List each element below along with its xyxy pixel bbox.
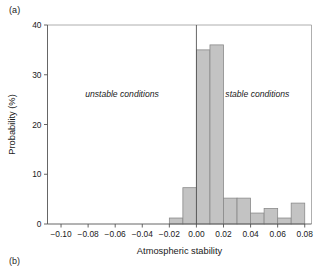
x-axis-tick-label: −0.04 bbox=[132, 229, 154, 239]
histogram-bar bbox=[196, 50, 210, 224]
chart-svg: −0.10−0.08−0.06−0.04−0.020.000.020.040.0… bbox=[0, 0, 323, 267]
x-axis-title: Atmospheric stability bbox=[137, 246, 223, 256]
y-axis-tick-label: 10 bbox=[32, 169, 42, 179]
x-axis-tick-label: −0.02 bbox=[159, 229, 181, 239]
x-axis-tick-label: 0.08 bbox=[297, 229, 314, 239]
x-axis-tick-label: −0.10 bbox=[50, 229, 72, 239]
histogram-bar bbox=[169, 218, 183, 224]
histogram-bar bbox=[291, 203, 305, 224]
annotation-unstable-conditions: unstable conditions bbox=[85, 89, 159, 99]
x-axis-tick-label: 0.04 bbox=[242, 229, 259, 239]
annotation-stable-conditions: stable conditions bbox=[225, 89, 290, 99]
y-axis-tick-label: 0 bbox=[37, 219, 42, 229]
x-axis-tick-label: 0.00 bbox=[188, 229, 205, 239]
histogram-bar bbox=[251, 213, 265, 224]
histogram-bar bbox=[264, 209, 278, 224]
y-axis-tick-label: 40 bbox=[32, 20, 42, 30]
histogram-bar bbox=[278, 218, 292, 224]
histogram-bar bbox=[237, 198, 251, 224]
histogram-bar bbox=[224, 198, 238, 224]
y-axis-tick-label: 20 bbox=[32, 120, 42, 130]
x-axis-tick-label: −0.08 bbox=[78, 229, 100, 239]
plot-area: −0.10−0.08−0.06−0.04−0.020.000.020.040.0… bbox=[7, 20, 314, 256]
y-axis-tick-label: 30 bbox=[32, 70, 42, 80]
histogram-bar bbox=[210, 45, 224, 224]
y-axis-title: Probability (%) bbox=[7, 94, 17, 154]
x-axis-tick-label: 0.02 bbox=[215, 229, 232, 239]
x-axis-tick-label: 0.06 bbox=[269, 229, 286, 239]
histogram-figure: −0.10−0.08−0.06−0.04−0.020.000.020.040.0… bbox=[0, 0, 323, 267]
histogram-bar bbox=[183, 188, 197, 224]
x-axis-tick-label: −0.06 bbox=[105, 229, 127, 239]
